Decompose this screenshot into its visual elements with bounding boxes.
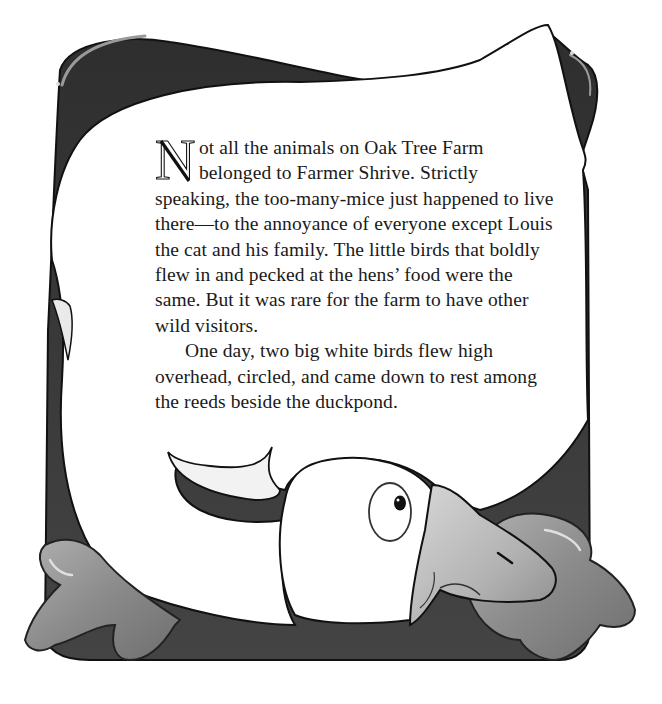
story-text: N ot all the animals on Oak Tree Farm be… <box>155 135 535 414</box>
text-line: overhead, circled, and came down to rest… <box>155 364 535 389</box>
highlight-dot <box>56 82 60 86</box>
goose-pupil <box>394 496 406 511</box>
text-line: ot all the animals on Oak Tree Farm <box>155 135 535 160</box>
text-line: the cat and his family. The little birds… <box>155 237 535 262</box>
text-line: the reeds beside the duckpond. <box>155 389 535 414</box>
text-line: same. But it was rare for the farm to ha… <box>155 287 535 312</box>
text-line: wild visitors. <box>155 313 535 338</box>
goose-eye <box>369 483 411 541</box>
text-line: there—to the annoyance of everyone excep… <box>155 211 535 236</box>
eye-glint <box>397 499 400 502</box>
text-line: speaking, the too-many-mice just happene… <box>155 186 535 211</box>
text-line: belonged to Farmer Shrive. Strictly <box>155 160 535 185</box>
right-highlight-dot <box>570 51 574 55</box>
drop-cap-n: N <box>155 137 197 183</box>
text-line: flew in and pecked at the hens’ food wer… <box>155 262 535 287</box>
text-line: One day, two big white birds flew high <box>155 338 535 363</box>
